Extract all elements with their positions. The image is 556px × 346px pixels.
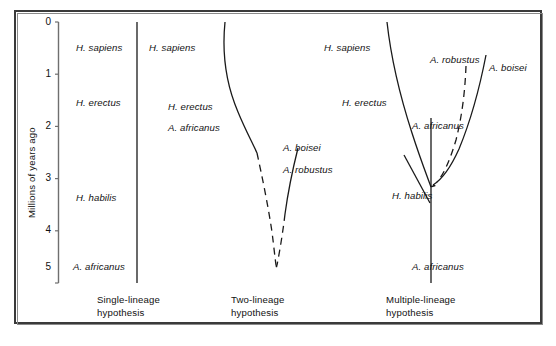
label-multi-h-sapiens: H. sapiens <box>324 42 370 53</box>
y-tick-5: 5 <box>37 261 51 272</box>
label-two-a-robustus: A. robustus <box>283 164 333 175</box>
y-tick-3: 3 <box>37 172 51 183</box>
caption-two-lineage: Two-lineage hypothesis <box>231 294 284 319</box>
label-multi-a-boisei: A. boisei <box>489 62 527 73</box>
label-two-a-boisei: A. boisei <box>283 142 321 153</box>
label-multi-a-africanus-base: A. africanus <box>412 261 464 272</box>
multi-homo-branch <box>387 22 431 187</box>
label-single-h-sapiens: H. sapiens <box>76 42 122 53</box>
y-tick-2: 2 <box>37 120 51 131</box>
caption-multi-line2: hypothesis <box>386 307 433 318</box>
label-single-h-erectus: H. erectus <box>76 97 121 108</box>
label-single-a-africanus: A. africanus <box>73 261 125 272</box>
caption-single-line1: Single-lineage <box>97 294 160 305</box>
label-multi-a-africanus-mid: A. africanus <box>412 120 464 131</box>
label-multi-h-habilis: H. habilis <box>392 190 432 201</box>
label-two-a-africanus: A. africanus <box>168 122 220 133</box>
label-multi-a-robustus: A. robustus <box>430 54 480 65</box>
y-axis-title: Millions of years ago <box>26 127 37 218</box>
two-lineage-vertex <box>276 265 277 267</box>
label-two-h-sapiens: H. sapiens <box>149 42 195 53</box>
y-tick-0: 0 <box>37 16 51 27</box>
caption-multiple-lineage: Multiple-lineage hypothesis <box>386 294 456 319</box>
y-tick-1: 1 <box>37 68 51 79</box>
two-lineage-australopith-dashed <box>277 214 285 265</box>
caption-two-line2: hypothesis <box>231 307 278 318</box>
label-two-h-erectus: H. erectus <box>168 101 213 112</box>
caption-multi-line1: Multiple-lineage <box>386 294 456 305</box>
two-lineage-homo-solid <box>224 22 257 153</box>
two-lineage-homo-dashed <box>257 153 276 265</box>
label-multi-h-erectus: H. erectus <box>342 97 387 108</box>
figure-container: Millions of years ago 0 1 2 3 4 5 H. sap… <box>0 0 556 346</box>
two-lineage-australopith-solid <box>285 148 298 214</box>
caption-single-line2: hypothesis <box>97 307 144 318</box>
y-tick-4: 4 <box>37 224 51 235</box>
caption-two-line1: Two-lineage <box>231 294 284 305</box>
label-single-h-habilis: H. habilis <box>76 192 116 203</box>
caption-single-lineage: Single-lineage hypothesis <box>97 294 160 319</box>
